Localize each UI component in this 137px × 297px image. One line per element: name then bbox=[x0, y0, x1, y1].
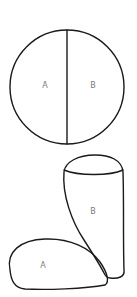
label-a-bottom: A bbox=[40, 261, 46, 270]
region-b-shape: B bbox=[64, 155, 124, 278]
divided-circle: A B bbox=[10, 30, 124, 144]
region-b-outline bbox=[64, 155, 124, 278]
region-b-rim bbox=[64, 170, 123, 175]
label-b-bottom: B bbox=[90, 207, 96, 216]
region-a-outline bbox=[9, 239, 107, 289]
label-b-top: B bbox=[90, 81, 96, 90]
region-a-shape: A bbox=[9, 239, 107, 289]
label-a-top: A bbox=[42, 81, 48, 90]
diagram-canvas: A B B A bbox=[0, 0, 137, 297]
